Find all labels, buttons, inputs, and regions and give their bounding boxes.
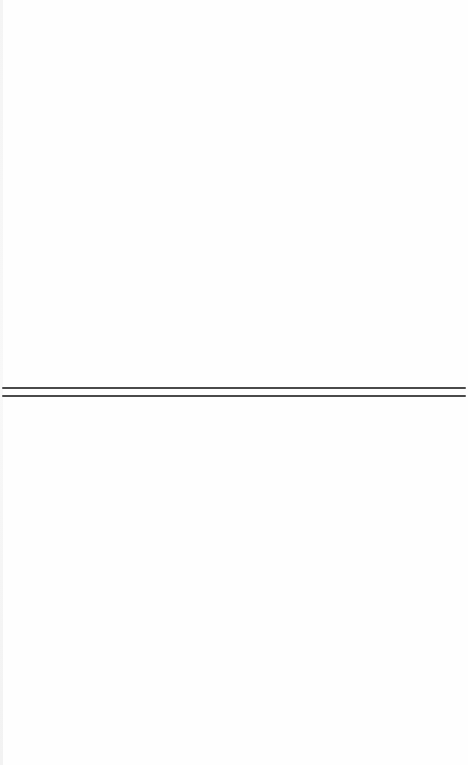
divider-line-bottom [2, 395, 466, 397]
left-page-edge [0, 0, 3, 765]
blank-page [0, 0, 468, 765]
divider-line-top [2, 387, 466, 389]
